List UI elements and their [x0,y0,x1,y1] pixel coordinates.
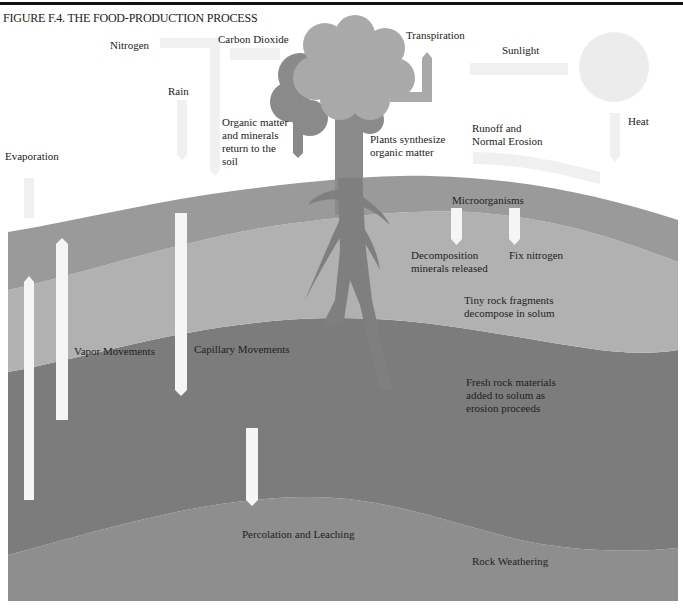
sunlight-label: Sunlight [502,44,539,57]
runoff-label: Runoff and Normal Erosion [472,122,543,148]
label-line: organic matter [370,146,445,159]
sunlight-arrow [470,63,568,75]
rock-weathering-label: Rock Weathering [472,555,548,568]
label-line: minerals released [411,262,488,275]
label-line: Decomposition [411,249,488,262]
label-line: Runoff and [472,122,543,135]
fix-nitrogen-label: Fix nitrogen [509,249,563,262]
rain-arrow [177,100,187,160]
label-line: added to solum as [466,389,556,402]
evaporation-arrow [24,178,34,218]
organic-return-label: Organic matter and minerals return to th… [222,116,288,168]
label-line: Normal Erosion [472,135,543,148]
percolation-arrow [246,428,258,506]
nitrogen-label: Nitrogen [110,39,149,52]
capillary-movements-label: Capillary Movements [194,343,290,356]
heat-label: Heat [628,115,649,128]
label-line: Organic matter [222,116,288,129]
sun-icon [579,32,649,102]
nitrogen-arrow [160,38,220,176]
plants-synthesize-label: Plants synthesize organic matter [370,133,445,159]
vapor-movements-label: Vapor Movements [74,345,155,358]
transpiration-label: Transpiration [406,29,465,42]
decomposition-arrow [451,208,462,245]
tiny-rock-label: Tiny rock fragments decompose in solum [464,294,554,320]
percolation-label: Percolation and Leaching [242,528,354,541]
rain-label: Rain [168,85,189,98]
food-production-diagram [0,0,683,611]
label-line: and minerals [222,129,288,142]
carbon-dioxide-arrow [230,48,280,60]
label-line: soil [222,155,288,168]
label-line: erosion proceeds [466,402,556,415]
vapor-arrow-2 [56,238,68,420]
microorganisms-label: Microorganisms [452,194,524,207]
capillary-arrow [175,213,187,396]
carbon-dioxide-label: Carbon Dioxide [218,33,289,46]
label-line: Plants synthesize [370,133,445,146]
label-line: return to the [222,142,288,155]
evaporation-label: Evaporation [5,150,59,163]
heat-arrow [610,113,620,162]
label-line: Tiny rock fragments [464,294,554,307]
label-line: decompose in solum [464,307,554,320]
fresh-rock-label: Fresh rock materials added to solum as e… [466,376,556,415]
decomposition-label: Decomposition minerals released [411,249,488,275]
runoff-arrow [473,152,600,184]
fix-nitrogen-arrow [509,208,520,245]
label-line: Fresh rock materials [466,376,556,389]
vapor-arrow-1 [24,276,34,500]
